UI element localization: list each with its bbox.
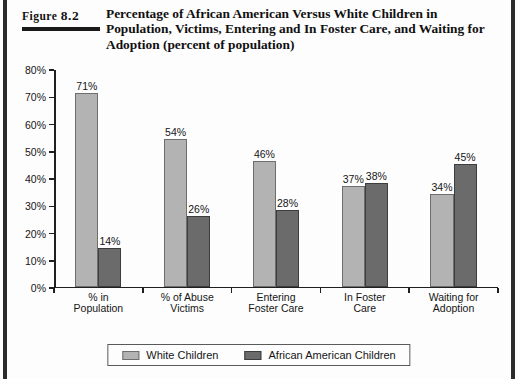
y-axis-label: 20% — [25, 228, 46, 240]
y-axis-label: 60% — [25, 119, 46, 131]
legend-swatch-african-american-children — [244, 351, 261, 360]
bar-african-american-children: 28% — [276, 210, 299, 286]
bar-value-label: 45% — [455, 151, 476, 163]
bar-african-american-children: 45% — [454, 164, 477, 287]
legend-label-white-children: White Children — [146, 349, 218, 361]
bar-white-children: 37% — [342, 186, 365, 287]
x-axis-category-label: EnteringFoster Care — [248, 292, 303, 315]
chart-area: 0%10%20%30%40%50%60%70%80%71%14%% inPopu… — [14, 62, 506, 310]
x-axis-tick — [53, 288, 55, 293]
bar-value-label: 37% — [343, 173, 364, 185]
bar-group: 34%45%Waiting forAdoption — [409, 69, 498, 287]
figure-title: Percentage of African American Versus Wh… — [106, 6, 500, 52]
y-axis-label: 70% — [25, 91, 46, 103]
bar-value-label: 54% — [165, 126, 186, 138]
x-axis — [54, 287, 498, 289]
x-axis-category-label: % of AbuseVictims — [161, 292, 214, 315]
bar-white-children: 71% — [75, 93, 98, 286]
y-axis-label: 80% — [25, 64, 46, 76]
bar-white-children: 46% — [253, 161, 276, 286]
page-left-rule — [3, 0, 7, 379]
y-axis-label: 50% — [25, 146, 46, 158]
legend-label-african-american-children: African American Children — [268, 349, 395, 361]
y-axis-label: 10% — [25, 255, 46, 267]
bar-african-american-children: 26% — [187, 216, 210, 287]
figure-label-rule — [22, 27, 100, 31]
bar-african-american-children: 38% — [365, 183, 388, 287]
legend-item-african-american-children: African American Children — [244, 349, 395, 361]
bar-white-children: 34% — [430, 194, 453, 287]
bar-value-label: 38% — [366, 170, 387, 182]
bar-value-label: 71% — [76, 80, 97, 92]
bar-group: 71%14%% inPopulation — [54, 69, 143, 287]
bar-value-label: 28% — [277, 197, 298, 209]
figure-label-block: Figure 8.2 — [22, 6, 106, 31]
x-axis-category-label: % inPopulation — [74, 292, 124, 315]
bar-african-american-children: 14% — [98, 248, 121, 286]
bar-group: 37%38%In FosterCare — [320, 69, 409, 287]
plot-region: 0%10%20%30%40%50%60%70%80%71%14%% inPopu… — [54, 70, 498, 288]
chart-legend: White Children African American Children — [107, 344, 410, 366]
legend-item-white-children: White Children — [122, 349, 218, 361]
figure-label: Figure 8.2 — [22, 8, 106, 24]
legend-swatch-white-children — [122, 351, 139, 360]
x-axis-tick — [231, 288, 233, 293]
figure-label-word: Figure — [22, 10, 57, 22]
figure-label-number: 8.2 — [61, 8, 79, 23]
x-axis-tick — [142, 288, 144, 293]
x-axis-tick — [497, 288, 499, 293]
bar-value-label: 26% — [188, 203, 209, 215]
x-axis-tick — [320, 288, 322, 293]
page-right-rule — [511, 0, 515, 379]
y-axis-label: 30% — [25, 200, 46, 212]
figure-page: Figure 8.2 Percentage of African America… — [0, 0, 518, 379]
x-axis-category-label: In FosterCare — [344, 292, 385, 315]
bar-white-children: 54% — [164, 139, 187, 286]
y-axis-label: 0% — [31, 282, 46, 294]
bar-group: 54%26%% of AbuseVictims — [143, 69, 232, 287]
x-axis-category-label: Waiting forAdoption — [429, 292, 479, 315]
bar-value-label: 34% — [432, 181, 453, 193]
bar-value-label: 46% — [254, 148, 275, 160]
y-axis-label: 40% — [25, 173, 46, 185]
figure-header: Figure 8.2 Percentage of African America… — [22, 6, 500, 52]
x-axis-tick — [408, 288, 410, 293]
bar-value-label: 14% — [99, 235, 120, 247]
bar-group: 46%28%EnteringFoster Care — [232, 69, 321, 287]
